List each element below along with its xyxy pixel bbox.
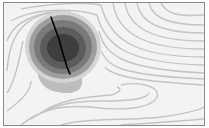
contour-map-frame bbox=[3, 2, 205, 126]
contour-map bbox=[4, 3, 204, 125]
depression-core bbox=[47, 34, 79, 62]
